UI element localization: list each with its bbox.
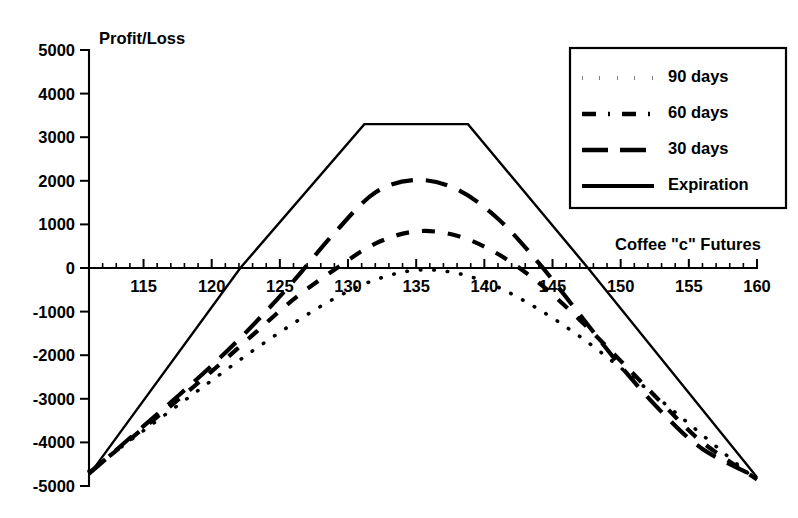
x-tick-label: 155 <box>675 277 703 295</box>
y-tick-label: 3000 <box>38 128 75 146</box>
x-tick-label: 115 <box>130 277 157 295</box>
x-tick-label: 130 <box>334 277 362 295</box>
x-axis-ticks <box>89 259 757 268</box>
y-tick-label: 5000 <box>38 41 75 59</box>
legend-label-3: 30 days <box>668 139 729 157</box>
x-tick-label: 140 <box>471 277 499 295</box>
y-axis-group: 500040003000200010000-1000-2000-3000-400… <box>33 41 89 495</box>
y-axis-ticks <box>80 50 89 486</box>
y-tick-label: -4000 <box>33 433 75 451</box>
x-tick-label: 150 <box>607 277 635 295</box>
y-tick-label: -2000 <box>33 346 75 364</box>
x-axis-label: Coffee "c" Futures <box>615 235 761 253</box>
y-tick-label: -3000 <box>33 390 75 408</box>
series-90-days <box>89 270 757 481</box>
y-tick-label: 4000 <box>38 85 75 103</box>
chart-canvas: 500040003000200010000-1000-2000-3000-400… <box>0 0 798 518</box>
x-tick-label: 160 <box>743 277 771 295</box>
y-axis-tick-labels: 500040003000200010000-1000-2000-3000-400… <box>33 41 75 495</box>
y-tick-label: -1000 <box>33 303 75 321</box>
legend-label-2: 60 days <box>668 103 729 121</box>
y-tick-label: 2000 <box>38 172 75 190</box>
chart-legend: 90 days60 days30 daysExpiration <box>570 48 786 208</box>
x-tick-label: 135 <box>402 277 430 295</box>
y-tick-label: 1000 <box>38 215 75 233</box>
x-tick-label: 125 <box>266 277 294 295</box>
y-tick-label: -5000 <box>33 477 75 495</box>
legend-label-4: Expiration <box>668 175 749 193</box>
profit-loss-chart: 500040003000200010000-1000-2000-3000-400… <box>0 0 798 518</box>
y-tick-label: 0 <box>66 259 75 277</box>
x-axis-group: 115120125130135140145150155160 <box>89 259 771 295</box>
y-axis-label: Profit/Loss <box>99 29 185 47</box>
series-30-days <box>89 180 757 477</box>
legend-label-1: 90 days <box>668 67 729 85</box>
